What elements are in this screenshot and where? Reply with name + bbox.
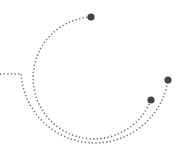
outer-dotted-arc: [21, 74, 168, 143]
top-node-dot: [87, 13, 94, 20]
inner-dotted-arc: [33, 17, 151, 139]
right-lower-node-dot: [147, 96, 154, 103]
right-upper-node-dot: [164, 76, 171, 83]
dotted-arcs-graphic: [0, 0, 192, 161]
